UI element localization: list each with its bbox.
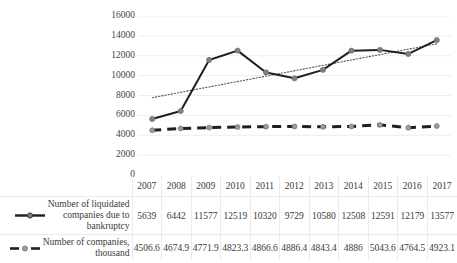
table-corner-cell bbox=[0, 176, 132, 197]
legend-solid-line-marker-icon bbox=[15, 210, 45, 221]
y-axis: 16000 14000 12000 10000 8000 6000 4000 2… bbox=[104, 16, 135, 175]
legend-label: Number of liquidated companies due to ba… bbox=[48, 199, 130, 232]
table-row: Number of companies, thousand 4506.6 467… bbox=[0, 235, 457, 262]
table-cell: 12508 bbox=[339, 197, 369, 235]
column-header-year: 2012 bbox=[280, 176, 310, 197]
table-cell: 4886 bbox=[339, 235, 369, 262]
table-cell: 4843.4 bbox=[309, 235, 339, 262]
table-cell: 6442 bbox=[162, 197, 192, 235]
table-cell: 10580 bbox=[309, 197, 339, 235]
legend-label-line: companies due to bbox=[63, 210, 129, 220]
table-cell: 4506.6 bbox=[132, 235, 162, 262]
legend-item-liquidated-companies: Number of liquidated companies due to ba… bbox=[0, 197, 132, 235]
data-table: 2007 2008 2009 2010 2011 2012 2013 2014 … bbox=[0, 176, 455, 263]
column-header-year: 2009 bbox=[191, 176, 221, 197]
column-header-year: 2013 bbox=[309, 176, 339, 197]
table-cell: 9729 bbox=[280, 197, 310, 235]
table-cell: 4823.3 bbox=[221, 235, 251, 262]
y-axis-tick: 14000 bbox=[111, 31, 135, 41]
table-cell: 12179 bbox=[398, 197, 428, 235]
legend-label-line: Number of liquidated bbox=[48, 199, 130, 209]
table-cell: 11577 bbox=[191, 197, 221, 235]
legend-label-line: Number of companies, bbox=[43, 237, 130, 247]
table-cell: 4923.1 bbox=[427, 235, 457, 262]
column-header-year: 2010 bbox=[221, 176, 251, 197]
table-cell: 4866.6 bbox=[250, 235, 280, 262]
y-axis-tick: 4000 bbox=[116, 130, 135, 140]
column-header-year: 2015 bbox=[368, 176, 398, 197]
plot-area bbox=[138, 16, 451, 175]
table-cell: 4764.5 bbox=[398, 235, 428, 262]
column-header-year: 2017 bbox=[427, 176, 457, 197]
y-axis-tick: 10000 bbox=[111, 71, 135, 81]
legend-item-companies-thousand: Number of companies, thousand bbox=[0, 235, 132, 262]
y-axis-tick: 2000 bbox=[116, 150, 135, 160]
table-cell: 4674.9 bbox=[162, 235, 192, 262]
table-cell: 13577 bbox=[427, 197, 457, 235]
gridlines bbox=[138, 16, 451, 155]
table-cell: 5043.6 bbox=[368, 235, 398, 262]
legend-label-line: thousand bbox=[95, 248, 129, 258]
column-header-year: 2011 bbox=[250, 176, 280, 197]
series-companies-thousand bbox=[150, 122, 440, 132]
legend-dashed-line-marker-icon bbox=[10, 243, 40, 254]
series-liquidated-companies bbox=[150, 37, 440, 121]
y-axis-tick: 6000 bbox=[116, 110, 135, 120]
column-header-year: 2016 bbox=[398, 176, 428, 197]
table-cell: 12519 bbox=[221, 197, 251, 235]
table-cell: 4886.4 bbox=[280, 235, 310, 262]
y-axis-tick: 12000 bbox=[111, 51, 135, 61]
table-cell: 4771.9 bbox=[191, 235, 221, 262]
table-cell: 5639 bbox=[132, 197, 162, 235]
chart-data-table: 2007 2008 2009 2010 2011 2012 2013 2014 … bbox=[0, 176, 457, 261]
table-row: Number of liquidated companies due to ba… bbox=[0, 197, 457, 235]
legend-label: Number of companies, thousand bbox=[43, 237, 130, 259]
chart-svg bbox=[138, 16, 451, 175]
legend-label-line: bankruptcy bbox=[87, 221, 130, 231]
table-cell: 12591 bbox=[368, 197, 398, 235]
column-header-year: 2007 bbox=[132, 176, 162, 197]
table-row-years: 2007 2008 2009 2010 2011 2012 2013 2014 … bbox=[0, 176, 457, 197]
y-axis-tick: 16000 bbox=[111, 11, 135, 21]
table-cell: 10320 bbox=[250, 197, 280, 235]
y-axis-tick: 8000 bbox=[116, 91, 135, 101]
column-header-year: 2008 bbox=[162, 176, 192, 197]
column-header-year: 2014 bbox=[339, 176, 369, 197]
